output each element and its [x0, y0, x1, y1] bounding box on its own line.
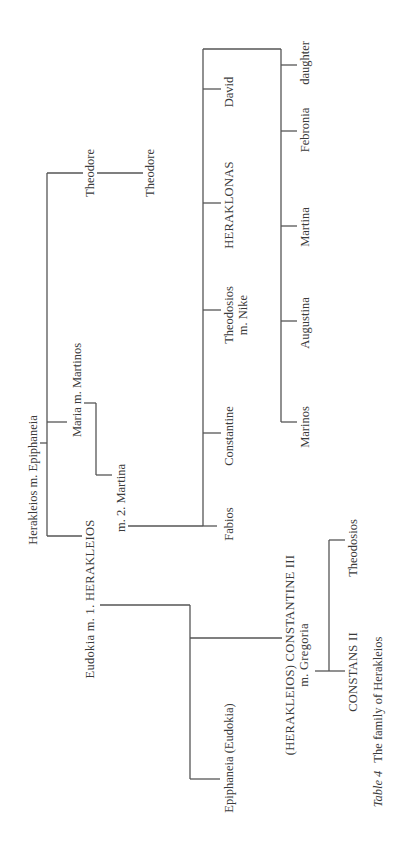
node-epiphaneia: Epiphaneia (Eudokia): [222, 703, 236, 812]
node-constantine-iii-name: (HERAKLEIOS) CONSTANTINE III: [283, 555, 297, 755]
node-theodosios-spouse: m. Nike: [236, 295, 250, 335]
node-fabios: Fabios: [222, 507, 236, 540]
node-martina-spouse: m. 2. Martina: [114, 464, 128, 532]
node-theodosios: Theodosios m. Nike: [222, 286, 250, 344]
node-david: David: [222, 77, 236, 108]
node-theodosios-name: Theodosios: [222, 286, 236, 344]
node-herakleios: Eudokia m. 1. HERAKLEIOS: [83, 520, 97, 679]
caption-text: The family of Herakleios: [371, 637, 385, 763]
node-root: Herakleios m. Epiphaneia: [26, 415, 40, 544]
node-theodore-1: Theodore: [83, 149, 97, 197]
node-theodosios-son: Theodosios: [346, 519, 360, 577]
node-martina-daughter: Martina: [298, 207, 312, 247]
node-constans-ii: CONSTANS II: [346, 632, 360, 712]
node-constantine-iii: (HERAKLEIOS) CONSTANTINE III m. Gregoria: [283, 555, 311, 755]
node-maria: Maria m. Martinos: [70, 343, 84, 437]
node-febronia: Febronia: [298, 108, 312, 152]
node-theodore-2: Theodore: [143, 149, 157, 197]
node-constantine-iii-spouse: m. Gregoria: [297, 623, 311, 687]
caption-label: Table 4: [371, 771, 385, 808]
node-constantine: Constantine: [222, 406, 236, 466]
node-augustina: Augustina: [298, 297, 312, 348]
node-marinos: Marinos: [298, 406, 312, 448]
node-daughter: daughter: [298, 41, 312, 85]
tree-connector-lines: [0, 0, 399, 851]
caption: Table 4The family of Herakleios: [371, 637, 385, 808]
node-heraklonas: HERAKLONAS: [222, 161, 236, 249]
